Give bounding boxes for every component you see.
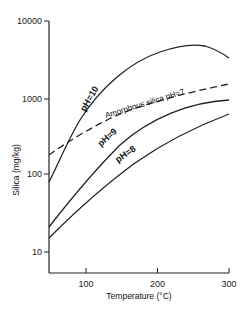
x-tick-300: 300: [221, 279, 236, 289]
y-tick-100: 100: [27, 169, 42, 179]
x-ticks: 100 200 300: [78, 268, 236, 289]
x-tick-200: 200: [150, 279, 165, 289]
curve-ph9: [49, 100, 229, 227]
y-axis-label: Silica (mg/kg): [11, 144, 21, 196]
y-tick-1000: 1000: [22, 94, 42, 104]
silica-solubility-chart: 10000 1000 100 10 100 200 300 Temperatur…: [0, 0, 248, 315]
y-tick-10000: 10000: [17, 16, 42, 26]
label-ph9: pH=9: [96, 126, 119, 148]
curve-ph10: [49, 45, 229, 182]
label-ph10: pH=10: [78, 84, 100, 113]
y-tick-10: 10: [32, 247, 42, 257]
label-amorphous-silica: Amorphous silica pH=7: [104, 87, 186, 120]
x-tick-100: 100: [78, 279, 93, 289]
x-axis-label: Temperature (°C): [106, 291, 171, 301]
curve-amorphous-silica: [49, 84, 229, 155]
y-ticks: 10000 1000 100 10: [17, 16, 49, 257]
curve-ph8: [49, 114, 229, 238]
label-ph8: pH=8: [113, 144, 137, 165]
